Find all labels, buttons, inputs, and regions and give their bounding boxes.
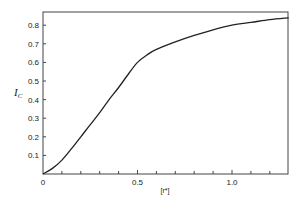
y-tick-label: 0.1 [28, 151, 40, 160]
line-chart: 0.10.20.30.40.50.60.70.8 00.51.0 [r*] IC [0, 0, 302, 203]
y-axis-label: IC [13, 86, 23, 100]
y-axis-label-subscript: C [18, 92, 23, 100]
data-curve [43, 18, 289, 174]
x-tick-label: 0 [41, 178, 46, 187]
plot-frame [43, 12, 288, 174]
x-axis-label: [r*] [161, 187, 170, 195]
x-tick-label: 0.5 [132, 178, 144, 187]
y-tick-label: 0.3 [28, 114, 40, 123]
y-tick-label: 0.5 [28, 77, 40, 86]
y-tick-label: 0.8 [28, 21, 40, 30]
y-tick-label: 0.2 [28, 133, 40, 142]
y-tick-label: 0.4 [28, 96, 40, 105]
y-tick-label: 0.7 [28, 40, 40, 49]
x-axis-ticks: 00.51.0 [41, 170, 270, 187]
y-tick-label: 0.6 [28, 58, 40, 67]
x-tick-label: 1.0 [226, 178, 238, 187]
